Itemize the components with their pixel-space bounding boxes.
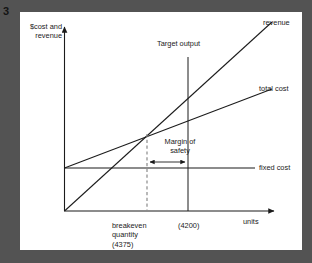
margin-of-safety-label: Margin ofsafety: [152, 137, 208, 156]
figure-root: 3 $cost andrevenue units revenue: [0, 0, 312, 263]
y-axis-title: $cost andrevenue: [0, 22, 62, 41]
total-cost-series-label: total cost: [259, 84, 289, 93]
breakeven-tick-line2: quantity: [112, 230, 138, 239]
breakeven-tick-line1: breakeven: [112, 221, 147, 230]
margin-of-safety-line2: safety: [170, 146, 190, 155]
breakeven-tick-label: breakevenquantity(4375): [112, 221, 176, 249]
fixed-cost-series-label: fixed cost: [259, 163, 290, 172]
total-cost-line: [65, 89, 273, 168]
y-axis-title-line2: revenue: [35, 31, 62, 40]
target-output-tick-label: (4200): [178, 221, 199, 230]
x-axis-title: units: [243, 217, 259, 226]
breakeven-tick-line3: (4375): [112, 240, 133, 249]
revenue-line: [65, 22, 273, 211]
margin-of-safety-line1: Margin of: [165, 137, 196, 146]
revenue-series-label: revenue: [263, 18, 290, 27]
target-output-label: Target output: [157, 39, 200, 48]
y-axis-title-line1: $cost and: [30, 22, 62, 31]
